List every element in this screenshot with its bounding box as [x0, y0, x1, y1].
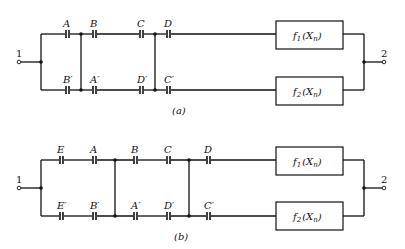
- cap-label: B: [89, 18, 97, 29]
- cap-label: D: [163, 18, 172, 29]
- capacitor-A-prime: [134, 212, 137, 220]
- circuit-diagrams: 1 A B C D B′ A′ D: [0, 0, 405, 249]
- capacitor-C-prime: [207, 212, 210, 220]
- diagram-a: 1 A B C D B′ A′ D: [16, 18, 387, 116]
- capacitor-C-prime: [167, 86, 170, 94]
- capacitor-B: [134, 156, 137, 164]
- capacitor-C: [140, 30, 143, 38]
- terminal-2-a: [382, 60, 386, 64]
- cap-label: B′: [62, 74, 73, 85]
- capacitor-D-prime: [167, 212, 170, 220]
- capacitor-A-prime: [93, 86, 96, 94]
- cap-label: D′: [136, 74, 148, 85]
- cap-label: E: [56, 144, 65, 155]
- cap-label: A′: [89, 74, 100, 85]
- capacitor-E: [60, 156, 63, 164]
- capacitor-A: [66, 30, 69, 38]
- cap-label: D: [203, 144, 212, 155]
- terminal-2-label-b: 2: [381, 174, 387, 185]
- cap-label: C′: [204, 200, 215, 211]
- capacitor-B-prime: [66, 86, 69, 94]
- cap-label: C′: [164, 74, 175, 85]
- junction: [187, 214, 191, 218]
- cap-label: A′: [130, 200, 141, 211]
- junction: [79, 88, 83, 92]
- capacitor-D: [207, 156, 210, 164]
- terminal-1-label-b: 1: [16, 174, 22, 185]
- capacitor-C: [167, 156, 170, 164]
- terminal-1-b: [17, 186, 21, 190]
- cap-label: A: [89, 144, 97, 155]
- junction: [113, 214, 117, 218]
- capacitor-D-prime: [140, 86, 143, 94]
- caption-a: (a): [172, 105, 186, 116]
- cap-label: C: [164, 144, 172, 155]
- caption-b: (b): [174, 231, 188, 242]
- diagram-b: 1 E A B C D: [16, 144, 387, 242]
- cap-label: A: [62, 18, 70, 29]
- terminal-1-a: [17, 60, 21, 64]
- capacitor-B-prime: [93, 212, 96, 220]
- cap-label: E′: [56, 200, 67, 211]
- capacitor-A: [93, 156, 96, 164]
- cap-label: B: [130, 144, 138, 155]
- junction: [153, 88, 157, 92]
- cap-label: D′: [163, 200, 175, 211]
- capacitor-D: [167, 30, 170, 38]
- terminal-2-label-a: 2: [381, 48, 387, 59]
- terminal-1-label-a: 1: [16, 48, 22, 59]
- capacitor-E-prime: [60, 212, 63, 220]
- cap-label: B′: [89, 200, 100, 211]
- cap-label: C: [137, 18, 145, 29]
- terminal-2-b: [382, 186, 386, 190]
- capacitor-B: [93, 30, 96, 38]
